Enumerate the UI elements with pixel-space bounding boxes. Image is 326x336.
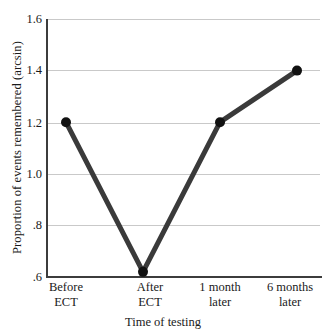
data-point — [292, 66, 302, 76]
series-line — [66, 71, 297, 272]
x-axis-tick-labels: Before ECT After ECT 1 month later 6 mon… — [0, 280, 326, 314]
x-tick-label-before-ect: Before ECT — [18, 280, 114, 310]
series-markers — [61, 66, 302, 277]
data-point — [215, 117, 225, 127]
x-tick-label-line2: ECT — [18, 295, 114, 310]
chart-figure: Proportion of events remembered (arcsin)… — [0, 0, 326, 336]
x-axis-title: Time of testing — [0, 315, 326, 330]
data-point — [138, 267, 148, 277]
x-tick-label-line1: Before — [18, 280, 114, 295]
x-tick-label-line1: 6 months — [242, 280, 326, 295]
x-tick-label-6-months-later: 6 months later — [242, 280, 326, 310]
x-tick-label-line2: later — [242, 295, 326, 310]
data-point — [61, 117, 71, 127]
